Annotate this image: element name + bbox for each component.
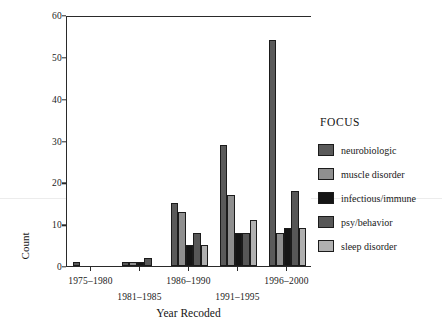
legend-swatch [318,192,334,204]
bar [276,233,284,266]
x-axis-tick-mark [139,266,140,271]
x-axis-tick-label: 1991–1995 [215,292,260,302]
y-axis-tick-label: 20 [52,178,62,188]
legend-item-label: muscle disorder [341,169,405,180]
chart-figure: Count 0102030405060 1975–19801981–198519… [0,0,442,332]
y-axis-title-wrap: Count [18,120,38,140]
x-axis-title: Year Recoded [66,307,311,319]
legend-item-label: sleep disorder [341,241,397,252]
legend-swatch [318,168,334,180]
bar [269,40,277,266]
x-axis-tick-label: 1981–1985 [117,292,162,302]
legend-item: muscle disorder [318,162,442,186]
bar [291,191,299,266]
legend-item-label: infectious/immune [341,193,416,204]
bar [227,195,235,266]
bar [284,228,292,266]
legend-swatch [318,144,334,156]
bar [250,220,258,266]
x-axis-tick-label: 1975–1980 [68,276,113,286]
plot-frame [66,16,311,267]
bar [171,203,179,266]
legend-rows: neurobiologicmuscle disorderinfectious/i… [318,138,442,258]
y-axis-tick-label: 50 [52,53,62,63]
x-axis-tick-mark [188,266,189,271]
legend-item-label: neurobiologic [341,145,397,156]
legend-swatch [318,240,334,252]
y-axis-tick-label: 40 [52,95,62,105]
y-axis-tick-label: 60 [52,11,62,21]
x-axis-tick-mark [286,266,287,271]
x-axis-tick-label: 1986–1990 [166,276,211,286]
x-axis-tick-label: 1996–2000 [264,276,309,286]
legend-item: infectious/immune [318,186,442,210]
x-axis-tick-mark [90,266,91,271]
legend-item: psy/behavior [318,210,442,234]
bar [220,145,228,266]
bar [299,228,307,266]
bar [178,212,186,266]
legend-item: neurobiologic [318,138,442,162]
x-axis-tick-mark [237,266,238,271]
y-axis-title: Count [19,233,31,260]
bar [193,233,201,266]
legend: FOCUS neurobiologicmuscle disorderinfect… [318,116,442,258]
x-axis-tick-labels: 1975–19801981–19851986–19901991–19951996… [66,272,311,306]
legend-swatch [318,216,334,228]
y-axis-tick-label: 10 [52,220,62,230]
legend-item-label: psy/behavior [341,217,393,228]
bar [186,245,194,266]
bar [242,233,250,266]
bar [235,233,243,266]
plot-area [67,17,311,266]
legend-item: sleep disorder [318,234,442,258]
y-axis-tick-labels: 0102030405060 [38,16,62,267]
bar [201,245,209,266]
legend-title: FOCUS [320,116,442,128]
bar [144,258,152,266]
y-axis-tick-label: 30 [52,137,62,147]
